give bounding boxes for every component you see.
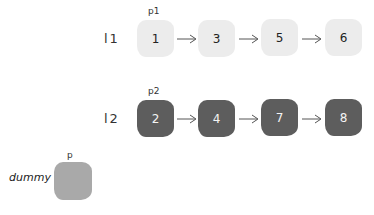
l2-node-1: 2 [137,100,174,137]
arrow-icon [176,114,198,124]
pointer-label-p1: p1 [148,6,159,16]
pointer-label-p2: p2 [148,86,159,96]
node-value: 6 [340,31,348,45]
l2-node-3: 7 [261,99,298,136]
dummy-node [54,162,92,200]
node-value: 3 [213,32,221,46]
dummy-label: dummy [9,171,51,184]
arrow-icon [238,34,260,44]
l1-node-2: 3 [198,20,235,57]
l2-node-2: 4 [198,100,235,137]
arrow-icon [176,34,198,44]
node-value: 7 [276,111,284,125]
node-value: 8 [340,111,348,125]
l1-node-3: 5 [261,19,298,56]
pointer-label-p: p [67,150,73,160]
node-value: 5 [276,31,284,45]
arrow-icon [301,114,323,124]
arrow-icon [301,34,323,44]
list-label-l1: l1 [104,31,120,46]
node-value: 1 [152,32,160,46]
node-value: 2 [152,112,160,126]
l1-node-4: 6 [325,19,362,56]
l1-node-1: 1 [137,20,174,57]
node-value: 4 [213,112,221,126]
l2-node-4: 8 [325,99,362,136]
list-label-l2: l2 [104,111,120,126]
arrow-icon [238,114,260,124]
